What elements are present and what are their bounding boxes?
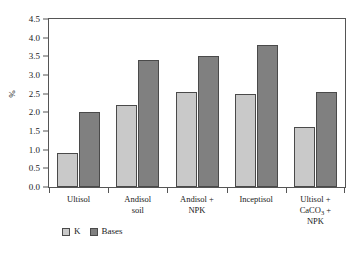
x-axis-tick-mark (344, 188, 345, 193)
bar-k-0 (57, 153, 78, 187)
x-axis-tick-mark (227, 188, 228, 193)
bar-chart-figure: % 0.00.51.01.52.02.53.03.54.04.5 Ultisol… (0, 0, 361, 257)
x-axis-tick-mark (108, 188, 109, 193)
y-axis-tick-label: 4.0 (29, 33, 40, 42)
y-axis-tick-label: 1.5 (29, 127, 40, 136)
plot-area (48, 18, 346, 188)
legend-swatch-icon (90, 228, 98, 236)
legend-label: Bases (102, 227, 123, 236)
bar-bases-2 (198, 56, 219, 187)
y-axis-tick-label: 0.0 (29, 183, 40, 192)
y-axis-tick-label: 2.5 (29, 89, 40, 98)
x-axis-category-label: Ultisol (49, 194, 108, 205)
x-axis-category-label: Inceptisol (227, 194, 286, 205)
bar-bases-1 (138, 60, 159, 187)
bar-bases-0 (79, 112, 100, 187)
bar-k-3 (235, 94, 256, 187)
bar-bases-3 (257, 45, 278, 187)
y-axis-tick-label: 2.0 (29, 108, 40, 117)
legend-swatch-icon (62, 228, 70, 236)
x-axis-category-label: Andisol +NPK (167, 194, 226, 215)
y-axis-tick-label: 3.0 (29, 71, 40, 80)
x-axis-tick-mark (286, 188, 287, 193)
y-axis-tick-label: 1.0 (29, 145, 40, 154)
bar-k-1 (116, 105, 137, 187)
y-axis-tick-label: 3.5 (29, 52, 40, 61)
y-axis-tick-label: 4.5 (29, 15, 40, 24)
legend-label: K (74, 227, 81, 236)
bar-k-4 (294, 127, 315, 187)
x-axis-category-label: Ultisol +CaCO3 +NPK (286, 194, 345, 227)
chart-legend: KBases (62, 227, 123, 236)
bar-bases-4 (316, 92, 337, 187)
bars-layer (49, 19, 345, 187)
legend-item-bases: Bases (90, 227, 123, 236)
y-axis-tick-label: 0.5 (29, 164, 40, 173)
y-axis: 0.00.51.01.52.02.53.03.54.04.5 (0, 18, 48, 188)
x-axis-tick-mark (167, 188, 168, 193)
x-axis-labels: UltisolAndisolsoilAndisol +NPKInceptisol… (49, 194, 345, 249)
legend-item-k: K (62, 227, 81, 236)
x-axis-category-label: Andisolsoil (108, 194, 167, 215)
x-axis-tick-mark (49, 188, 50, 193)
bar-k-2 (176, 92, 197, 187)
